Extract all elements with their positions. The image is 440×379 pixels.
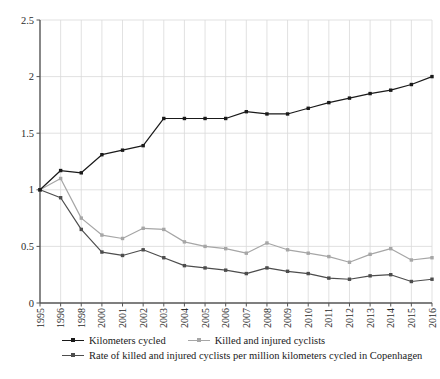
data-point-marker	[80, 171, 83, 174]
x-tick-label: 2005	[200, 308, 211, 328]
data-series-group	[38, 75, 433, 283]
x-tick-label: 2007	[241, 308, 252, 328]
data-point-marker	[100, 233, 103, 236]
legend-row-1: Kilometers cycled Killed and injured cyc…	[0, 333, 440, 348]
data-point-marker	[141, 248, 144, 251]
x-tick-label: 2001	[117, 308, 128, 328]
data-point-marker	[141, 227, 144, 230]
x-tick-label: 2013	[365, 308, 376, 328]
data-point-marker	[410, 258, 413, 261]
legend-label: Rate of killed and injured cyclists per …	[89, 350, 422, 362]
x-tick-label: 2002	[138, 308, 149, 328]
y-tick-label: 2	[29, 71, 34, 82]
data-point-marker	[38, 188, 41, 191]
data-point-marker	[430, 256, 433, 259]
data-point-marker	[348, 96, 351, 99]
data-point-marker	[286, 270, 289, 273]
data-point-marker	[141, 144, 144, 147]
data-point-marker	[121, 237, 124, 240]
data-point-marker	[286, 248, 289, 251]
y-axis-tick-labels: 00.511.522.5	[21, 15, 34, 309]
data-point-marker	[389, 273, 392, 276]
data-point-marker	[100, 153, 103, 156]
data-point-marker	[245, 110, 248, 113]
data-point-marker	[59, 177, 62, 180]
x-tick-label: 2014	[385, 308, 396, 328]
data-point-marker	[183, 117, 186, 120]
y-tick-label: 1	[29, 184, 34, 195]
series-line	[40, 178, 432, 262]
data-point-marker	[224, 268, 227, 271]
data-point-marker	[265, 241, 268, 244]
series-2	[38, 188, 433, 283]
data-point-marker	[59, 196, 62, 199]
data-point-marker	[307, 272, 310, 275]
y-tick-label: 1.5	[21, 128, 34, 139]
data-point-marker	[203, 266, 206, 269]
data-point-marker	[430, 278, 433, 281]
data-point-marker	[162, 228, 165, 231]
data-point-marker	[100, 250, 103, 253]
x-tick-label: 2012	[344, 308, 355, 328]
legend-entry-rate-per-million-kilometers: Rate of killed and injured cyclists per …	[62, 350, 422, 362]
grid-lines	[40, 20, 432, 303]
x-tick-label: 2006	[220, 308, 231, 328]
data-point-marker	[203, 117, 206, 120]
y-tick-label: 0.5	[21, 241, 34, 252]
x-axis-tick-labels: 1995199619982000200120022003200420052006…	[35, 308, 438, 328]
line-chart-svg: 00.511.522.5 199519961998200020012002200…	[0, 0, 440, 330]
data-point-marker	[121, 148, 124, 151]
chart-figure: 00.511.522.5 199519961998200020012002200…	[0, 0, 440, 379]
legend-label: Kilometers cycled	[89, 335, 166, 347]
data-point-marker	[368, 274, 371, 277]
x-tick-label: 1995	[35, 308, 46, 328]
data-point-marker	[121, 254, 124, 257]
x-tick-label: 1996	[55, 308, 66, 328]
legend-entry-killed-and-injured-cyclists: Killed and injured cyclists	[188, 335, 326, 347]
data-point-marker	[327, 255, 330, 258]
legend-entry-kilometers-cycled: Kilometers cycled	[62, 335, 166, 347]
data-point-marker	[348, 278, 351, 281]
x-tick-label: 2011	[323, 308, 334, 328]
legend-marker-icon	[62, 336, 84, 346]
y-tick-label: 2.5	[21, 15, 34, 26]
y-tick-label: 0	[29, 298, 34, 309]
data-point-marker	[265, 266, 268, 269]
data-point-marker	[368, 253, 371, 256]
data-point-marker	[80, 228, 83, 231]
data-point-marker	[327, 101, 330, 104]
data-point-marker	[286, 112, 289, 115]
data-point-marker	[265, 112, 268, 115]
data-point-marker	[183, 264, 186, 267]
x-tick-label: 1998	[76, 308, 87, 328]
data-point-marker	[327, 276, 330, 279]
data-point-marker	[389, 247, 392, 250]
data-point-marker	[245, 272, 248, 275]
x-tick-label: 2004	[179, 308, 190, 328]
x-tick-label: 2008	[262, 308, 273, 328]
data-point-marker	[410, 83, 413, 86]
data-point-marker	[307, 251, 310, 254]
x-tick-label: 2015	[406, 308, 417, 328]
legend-marker-icon	[188, 336, 210, 346]
data-point-marker	[162, 256, 165, 259]
x-tick-label: 2016	[427, 308, 438, 328]
data-point-marker	[245, 251, 248, 254]
axis-lines	[37, 20, 433, 307]
data-point-marker	[348, 261, 351, 264]
data-point-marker	[410, 280, 413, 283]
data-point-marker	[80, 216, 83, 219]
data-point-marker	[59, 169, 62, 172]
data-point-marker	[368, 92, 371, 95]
chart-legend: Kilometers cycled Killed and injured cyc…	[0, 333, 440, 379]
data-point-marker	[307, 107, 310, 110]
x-tick-label: 2003	[158, 308, 169, 328]
data-point-marker	[389, 88, 392, 91]
legend-row-2: Rate of killed and injured cyclists per …	[0, 348, 440, 363]
series-line	[40, 190, 432, 282]
data-point-marker	[430, 75, 433, 78]
data-point-marker	[203, 245, 206, 248]
legend-marker-icon	[62, 351, 84, 361]
data-point-marker	[224, 117, 227, 120]
x-tick-label: 2000	[96, 308, 107, 328]
